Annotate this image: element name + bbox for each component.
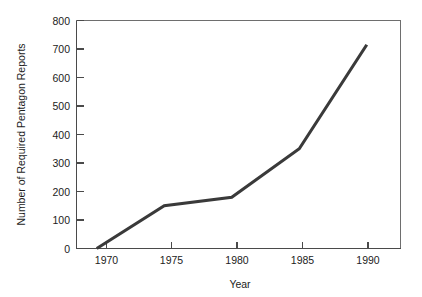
y-tick-label-400: 400 [52,129,70,141]
data-series-line [97,45,367,249]
y-tick-label-600: 600 [52,72,70,84]
x-tick-marks [107,242,369,249]
x-tick-labels: 1970 1975 1980 1985 1990 [95,254,380,266]
x-tick-label-1985: 1985 [291,254,315,266]
x-tick-label-1970: 1970 [95,254,119,266]
y-tick-label-0: 0 [64,243,70,255]
chart-figure: 800 700 600 500 400 300 200 100 0 1970 1… [0,0,422,297]
y-axis-title: Number of Required Pentagon Reports [15,43,27,225]
y-tick-label-200: 200 [52,186,70,198]
y-tick-label-500: 500 [52,100,70,112]
y-tick-label-700: 700 [52,43,70,55]
x-tick-label-1975: 1975 [160,254,184,266]
x-axis-title: Year [229,278,251,290]
x-tick-label-1980: 1980 [225,254,249,266]
x-tick-label-1990: 1990 [356,254,380,266]
y-tick-label-100: 100 [52,214,70,226]
line-chart: 800 700 600 500 400 300 200 100 0 1970 1… [0,0,422,297]
plot-frame [77,21,401,249]
y-tick-label-300: 300 [52,157,70,169]
y-tick-label-800: 800 [52,15,70,27]
y-tick-marks [77,21,84,249]
y-tick-labels: 800 700 600 500 400 300 200 100 0 [52,15,70,255]
